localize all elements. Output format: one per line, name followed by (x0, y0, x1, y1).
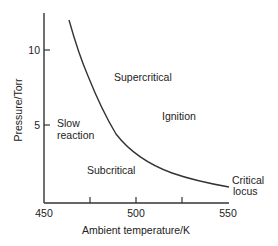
x-tick-label-500: 500 (127, 207, 145, 219)
label-supercritical: Supercritical (114, 71, 172, 83)
x-tick-label-550: 550 (219, 207, 237, 219)
y-axis-title: Pressure/Torr (12, 78, 24, 142)
x-tick-label-450: 450 (35, 207, 53, 219)
label-critical-locus-line2: locus (233, 185, 258, 197)
y-tick-label-10: 10 (28, 44, 40, 56)
chart: 10 5 450 500 550 Ambient temperature/K P… (0, 0, 278, 246)
critical-locus-curve (69, 20, 229, 187)
label-slow-reaction-line2: reaction (57, 129, 95, 141)
y-tick-label-5: 5 (34, 119, 40, 131)
x-axis-title: Ambient temperature/K (82, 224, 190, 236)
label-slow-reaction-line1: Slow (57, 117, 80, 129)
label-ignition: Ignition (162, 110, 196, 122)
label-subcritical: Subcritical (87, 164, 135, 176)
